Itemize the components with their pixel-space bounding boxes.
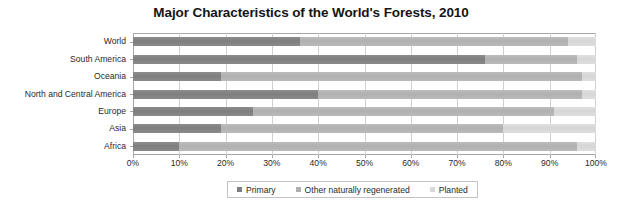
x-axis-label: 70% xyxy=(448,158,465,168)
x-axis-label: 30% xyxy=(263,158,280,168)
bar-segment-primary xyxy=(133,55,485,64)
bar-segment-planted xyxy=(577,55,596,64)
bar-segment-other-naturally-regenerated xyxy=(485,55,578,64)
y-axis-label: Africa xyxy=(104,142,126,151)
y-axis-label: Europe xyxy=(98,107,126,116)
x-axis-label: 60% xyxy=(402,158,419,168)
x-axis-label: 100% xyxy=(585,158,607,168)
x-axis-label: 20% xyxy=(217,158,234,168)
bar-segment-other-naturally-regenerated xyxy=(318,90,582,99)
legend-swatch-icon xyxy=(296,187,301,192)
bar-segment-planted xyxy=(503,124,596,133)
y-axis-label: World xyxy=(104,37,126,46)
bar-segment-primary xyxy=(133,142,179,151)
x-axis-label: 40% xyxy=(310,158,327,168)
x-axis-label: 90% xyxy=(541,158,558,168)
bar-segment-primary xyxy=(133,124,221,133)
y-tick-mark xyxy=(130,59,133,60)
y-tick-mark xyxy=(130,42,133,43)
bar-row xyxy=(133,72,596,81)
bar-segment-planted xyxy=(582,90,596,99)
x-axis-tick-labels: 0%10%20%30%40%50%60%70%80%90%100% xyxy=(133,158,596,172)
bar-segment-planted xyxy=(582,72,596,81)
bar-segment-other-naturally-regenerated xyxy=(221,72,582,81)
x-axis-label: 10% xyxy=(171,158,188,168)
bar-row xyxy=(133,124,596,133)
legend-swatch-icon xyxy=(430,187,435,192)
bar-segment-primary xyxy=(133,37,300,46)
bar-row xyxy=(133,90,596,99)
bar-segment-primary xyxy=(133,107,253,116)
bar-segment-other-naturally-regenerated xyxy=(253,107,554,116)
bar-row xyxy=(133,37,596,46)
bar-row xyxy=(133,55,596,64)
chart-title: Major Characteristics of the World's For… xyxy=(0,5,622,20)
y-tick-mark xyxy=(130,77,133,78)
bar-segment-other-naturally-regenerated xyxy=(221,124,503,133)
bar-series-group xyxy=(133,33,596,155)
legend-label: Other naturally regenerated xyxy=(305,185,410,195)
plot-area xyxy=(133,33,596,155)
legend-item-other-naturally-regenerated[interactable]: Other naturally regenerated xyxy=(296,185,410,195)
chart-container: Major Characteristics of the World's For… xyxy=(0,0,622,211)
y-tick-mark xyxy=(130,129,133,130)
bar-row xyxy=(133,142,596,151)
y-tick-mark xyxy=(130,146,133,147)
bar-segment-primary xyxy=(133,90,318,99)
y-axis-label: South America xyxy=(70,55,126,64)
bar-segment-planted xyxy=(577,142,596,151)
legend-label: Planted xyxy=(439,185,468,195)
legend-item-planted[interactable]: Planted xyxy=(430,185,468,195)
y-tick-mark xyxy=(130,111,133,112)
legend-item-primary[interactable]: Primary xyxy=(237,185,276,195)
x-axis-label: 0% xyxy=(127,158,139,168)
x-axis-label: 80% xyxy=(495,158,512,168)
y-axis-category-labels: WorldSouth AmericaOceaniaNorth and Centr… xyxy=(0,33,130,155)
legend-swatch-icon xyxy=(237,187,242,192)
bar-segment-other-naturally-regenerated xyxy=(300,37,569,46)
x-axis-label: 50% xyxy=(356,158,373,168)
legend-label: Primary xyxy=(246,185,276,195)
bar-segment-planted xyxy=(554,107,596,116)
y-tick-mark xyxy=(130,94,133,95)
chart-legend: PrimaryOther naturally regeneratedPlante… xyxy=(227,181,478,198)
bar-segment-primary xyxy=(133,72,221,81)
y-axis-label: Asia xyxy=(109,124,126,133)
bar-segment-other-naturally-regenerated xyxy=(179,142,577,151)
y-axis-label: North and Central America xyxy=(25,90,126,99)
bar-row xyxy=(133,107,596,116)
y-axis-label: Oceania xyxy=(94,72,126,81)
bar-segment-planted xyxy=(568,37,596,46)
